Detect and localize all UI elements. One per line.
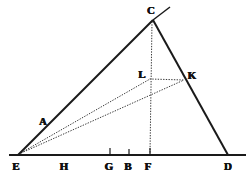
- point-label-G: G: [105, 161, 114, 172]
- point-label-E: E: [12, 161, 19, 172]
- point-label-A: A: [39, 117, 47, 128]
- side-CD: [153, 20, 228, 155]
- figure-canvas: [0, 0, 251, 180]
- triangle-sides: [9, 7, 246, 155]
- extension-beyond-C: [153, 7, 170, 20]
- dotted-segment-L-K: [150, 79, 184, 80]
- point-label-L: L: [138, 69, 145, 80]
- point-label-H: H: [60, 161, 69, 172]
- point-label-F: F: [145, 161, 152, 172]
- dotted-construction-lines: [19, 22, 184, 154]
- geometry-figure: C K L A E H G B F D: [0, 0, 251, 180]
- point-label-B: B: [124, 161, 131, 172]
- dotted-perpendicular-C-F: [150, 22, 152, 154]
- point-label-D: D: [224, 161, 232, 172]
- point-label-C: C: [147, 5, 155, 16]
- point-label-K: K: [188, 70, 197, 81]
- side-EC: [18, 20, 153, 155]
